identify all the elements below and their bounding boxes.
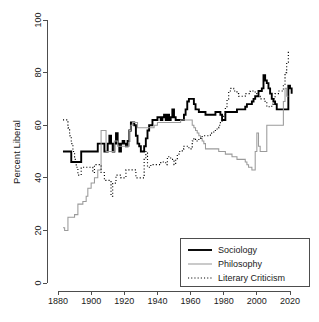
y-axis-title: Percent Liberal [11, 120, 22, 184]
y-axis: 020406080100 [33, 12, 47, 285]
series-line-literary-criticism [63, 52, 290, 197]
x-tick-label: 2020 [280, 296, 300, 306]
x-tick-label: 1960 [181, 296, 201, 306]
y-tick-label: 60 [33, 120, 43, 130]
y-tick-label: 40 [33, 173, 43, 183]
series-line-philosophy [63, 88, 288, 230]
x-tick-label: 1880 [48, 296, 68, 306]
x-tick-label: 1940 [147, 296, 167, 306]
y-tick-label: 80 [33, 68, 43, 78]
legend-label-literary-criticism: Literary Criticism [218, 273, 285, 283]
y-tick-label: 0 [33, 280, 43, 285]
x-tick-label: 1980 [214, 296, 234, 306]
legend-label-philosophy: Philosophy [218, 259, 263, 269]
x-tick-label: 1920 [114, 296, 134, 306]
y-tick-label: 100 [33, 12, 43, 27]
data-series-group [63, 52, 292, 231]
chart-container: 020406080100 188019001920194019601980200… [0, 0, 319, 322]
legend-label-sociology: Sociology [218, 245, 258, 255]
x-tick-label: 2000 [247, 296, 267, 306]
chart-legend: SociologyPhilosophyLiterary Criticism [180, 238, 309, 286]
y-tick-label: 20 [33, 225, 43, 235]
x-tick-label: 1900 [81, 296, 101, 306]
x-axis: 18801900192019401960198020002020 [48, 291, 300, 306]
line-chart: 020406080100 188019001920194019601980200… [0, 0, 319, 322]
